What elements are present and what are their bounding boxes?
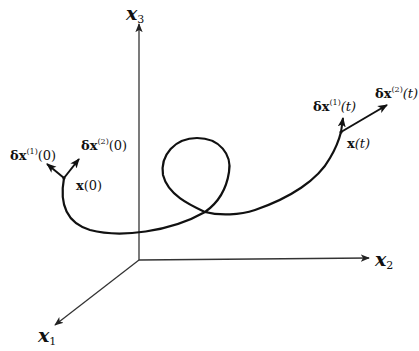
x1-axis-label: x1 [37,324,56,348]
trajectory-curve [63,132,341,233]
xt-label: x(t) [347,136,370,151]
x2-axis [139,258,369,260]
delta-x1-0-arrow [47,164,64,178]
delta-x1-t-label: δx(1)(t) [313,98,356,114]
axes [55,24,369,325]
start-point-dot [62,176,65,179]
x3-axis-label: x3 [125,2,144,26]
delta-x1-0-label: δx(1)(0) [10,147,56,163]
delta-x2-0-label: δx(2)(0) [81,137,127,153]
trajectory-diagram: x3 x2 x1 δx(1)(0) δx(2)(0) x(0) δx(1)(t)… [0,0,419,351]
x1-axis [55,260,139,325]
end-point-dot [339,130,342,133]
delta-x2-0-arrow [64,159,79,178]
x0-label: x(0) [76,178,102,193]
delta-x2-t-label: δx(2)(t) [375,85,418,101]
x2-axis-label: x2 [374,248,393,272]
